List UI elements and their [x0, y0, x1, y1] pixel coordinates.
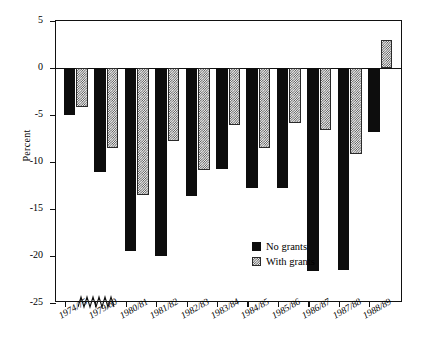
y-tick	[50, 21, 56, 22]
axis-break-zigzag-icon	[78, 294, 116, 310]
bar	[107, 68, 119, 148]
bar	[216, 68, 228, 169]
bar	[76, 68, 88, 107]
y-tick-label: -5	[35, 109, 43, 119]
bar	[381, 40, 393, 68]
y-tick-label: 0	[38, 62, 43, 72]
legend-swatch-with-grants	[252, 257, 261, 266]
bar	[350, 68, 362, 154]
y-tick	[50, 115, 56, 116]
bar	[338, 68, 350, 270]
bar	[320, 68, 332, 130]
legend-label-with-grants: With grants	[266, 255, 315, 268]
bar	[277, 68, 289, 188]
y-tick	[50, 209, 56, 210]
bar	[229, 68, 241, 125]
bar	[64, 68, 76, 115]
y-tick	[50, 256, 56, 257]
legend-item-no-grants: No grants	[252, 240, 315, 253]
legend-item-with-grants: With grants	[252, 255, 315, 268]
y-tick-label: -20	[30, 250, 43, 260]
y-tick-label: -10	[30, 156, 43, 166]
plot-area: No grants With grants	[55, 20, 402, 302]
y-tick	[50, 68, 56, 69]
y-tick-label: -15	[30, 203, 43, 213]
legend: No grants With grants	[252, 240, 315, 270]
bar	[168, 68, 180, 141]
chart-root: Percent No grants With grants 50-5-10-15…	[0, 0, 431, 347]
y-tick-label: 5	[38, 15, 43, 25]
bar	[94, 68, 106, 172]
y-tick	[50, 162, 56, 163]
y-tick	[50, 303, 56, 304]
y-tick-label: -25	[30, 297, 43, 307]
y-axis-label: Percent	[21, 106, 32, 186]
bar	[186, 68, 198, 196]
bar	[289, 68, 301, 123]
bar	[198, 68, 210, 170]
bar	[125, 68, 137, 251]
bar	[246, 68, 258, 188]
bar	[137, 68, 149, 195]
legend-label-no-grants: No grants	[266, 240, 307, 253]
legend-swatch-no-grants	[252, 242, 261, 251]
bar	[259, 68, 271, 148]
bar	[368, 68, 380, 132]
bar	[155, 68, 167, 256]
